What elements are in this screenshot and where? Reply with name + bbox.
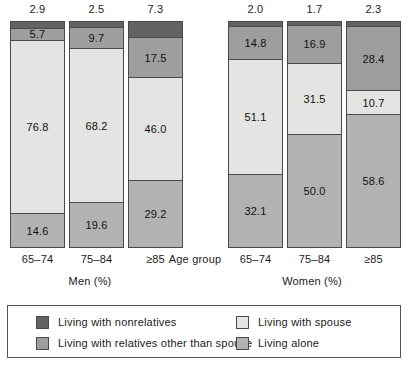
panel-title-men: Men (%) (4, 274, 176, 288)
bar-segment-value: 29.2 (144, 208, 166, 220)
bar-group-men-85-plus: 7.3 17.546.029.2 ≥85 (128, 0, 183, 292)
bar-segment-value: 16.9 (303, 38, 325, 50)
bar-top-value: 2.9 (10, 2, 65, 16)
panel-title-women: Women (%) (222, 274, 402, 288)
bar-segment-value: 17.5 (144, 52, 166, 64)
bar-top-value: 2.3 (346, 2, 401, 16)
stacked-bar-chart: 2.9 5.776.814.6 65–74 2.5 9.768.219.6 75… (0, 0, 409, 292)
category-label: ≥85 (342, 252, 405, 266)
bar-segment-value: 14.6 (26, 225, 48, 237)
bar-segment-relatives[interactable]: 14.8 (229, 27, 282, 60)
panel-men: 2.9 5.776.814.6 65–74 2.5 9.768.219.6 75… (4, 0, 176, 292)
bar-segment-alone[interactable]: 50.0 (288, 135, 341, 247)
bar-segment-relatives[interactable]: 9.7 (70, 28, 123, 50)
bar-segment-alone[interactable]: 19.6 (70, 203, 123, 247)
legend-swatch-relatives-icon (36, 337, 49, 350)
bar-group-women-85-plus: 2.3 28.410.758.6 ≥85 (346, 0, 401, 292)
legend-label: Living with nonrelatives (58, 316, 177, 329)
bar-segment-spouse[interactable]: 76.8 (11, 41, 64, 214)
bar-group-women-75-84: 1.7 16.931.550.0 75–84 (287, 0, 342, 292)
bar-segment-relatives[interactable]: 5.7 (11, 29, 64, 42)
bar-segment-relatives[interactable]: 16.9 (288, 26, 341, 64)
legend-swatch-nonrelatives-icon (36, 316, 49, 329)
category-label: 75–84 (65, 252, 128, 266)
bar-segment-spouse[interactable]: 46.0 (129, 78, 182, 182)
bar-segment-alone[interactable]: 32.1 (229, 175, 282, 247)
bar-segment-alone[interactable]: 14.6 (11, 214, 64, 247)
stacked-bar[interactable]: 28.410.758.6 (346, 21, 401, 248)
bar-segment-alone[interactable]: 58.6 (347, 115, 400, 247)
bar-segment-spouse[interactable]: 51.1 (229, 60, 282, 175)
bar-segment-value: 76.8 (26, 121, 48, 133)
bar-segment-value: 51.1 (244, 111, 266, 123)
category-label: 65–74 (224, 252, 287, 266)
bar-segment-nonrelatives[interactable] (129, 22, 182, 38)
legend-label: Living with relatives other than spouse (58, 337, 252, 350)
legend-item[interactable]: Living with relatives other than spouse (36, 333, 252, 353)
bar-segment-value: 9.7 (89, 32, 105, 44)
axis-title: Age group (160, 252, 230, 266)
bar-segment-alone[interactable]: 29.2 (129, 181, 182, 247)
stacked-bar[interactable]: 5.776.814.6 (10, 21, 65, 248)
bar-segment-value: 5.7 (30, 29, 46, 41)
bar-group-men-65-74: 2.9 5.776.814.6 65–74 (10, 0, 65, 292)
bar-group-women-65-74: 2.0 14.851.132.1 65–74 (228, 0, 283, 292)
legend-column-left: Living with nonrelatives Living with rel… (36, 312, 252, 354)
stacked-bar[interactable]: 17.546.029.2 (128, 21, 183, 248)
bar-top-value: 2.5 (69, 2, 124, 16)
bar-top-value: 1.7 (287, 2, 342, 16)
bar-segment-value: 58.6 (362, 175, 384, 187)
legend-label: Living with spouse (258, 316, 352, 329)
legend-swatch-alone-icon (236, 337, 249, 350)
bar-segment-value: 68.2 (85, 120, 107, 132)
stacked-bar[interactable]: 14.851.132.1 (228, 21, 283, 248)
bar-segment-value: 19.6 (85, 219, 107, 231)
legend-item[interactable]: Living with spouse (236, 312, 352, 332)
bar-segment-relatives[interactable]: 28.4 (347, 27, 400, 91)
category-label: 75–84 (283, 252, 346, 266)
bar-segment-value: 31.5 (303, 93, 325, 105)
bar-group-men-75-84: 2.5 9.768.219.6 75–84 (69, 0, 124, 292)
bar-segment-spouse[interactable]: 31.5 (288, 64, 341, 135)
legend-column-right: Living with spouse Living alone (236, 312, 352, 354)
bar-segment-spouse[interactable]: 68.2 (70, 49, 123, 202)
bar-segment-value: 14.8 (244, 37, 266, 49)
category-label: 65–74 (6, 252, 69, 266)
bar-segment-value: 28.4 (362, 53, 384, 65)
bar-segment-value: 32.1 (244, 205, 266, 217)
legend-item[interactable]: Living alone (236, 333, 352, 353)
stacked-bar[interactable]: 9.768.219.6 (69, 21, 124, 248)
bar-top-value: 2.0 (228, 2, 283, 16)
bar-segment-value: 46.0 (144, 123, 166, 135)
bar-segment-value: 50.0 (303, 185, 325, 197)
bar-segment-relatives[interactable]: 17.5 (129, 38, 182, 77)
legend-item[interactable]: Living with nonrelatives (36, 312, 252, 332)
bar-segment-spouse[interactable]: 10.7 (347, 91, 400, 115)
legend-swatch-spouse-icon (236, 316, 249, 329)
panel-women: 2.0 14.851.132.1 65–74 1.7 16.931.550.0 … (222, 0, 402, 292)
legend: Living with nonrelatives Living with rel… (7, 305, 401, 358)
bar-segment-value: 10.7 (362, 97, 384, 109)
stacked-bar[interactable]: 16.931.550.0 (287, 21, 342, 248)
legend-label: Living alone (258, 337, 319, 350)
bar-top-value: 7.3 (128, 2, 183, 16)
